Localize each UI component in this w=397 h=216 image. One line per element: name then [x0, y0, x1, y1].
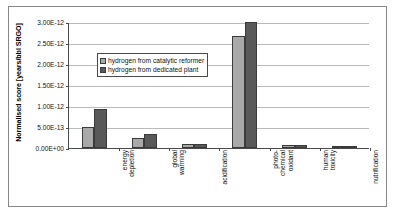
y-axis-tick-label: 0.00E+00 — [18, 145, 64, 152]
y-axis-tick-label: 3.00E-12 — [18, 19, 64, 26]
bar-group — [270, 23, 320, 148]
x-axis-label-line: nutrification — [372, 150, 379, 206]
bar-1 — [245, 22, 258, 148]
x-axis-label: energydepletion — [121, 150, 136, 206]
y-axis-tick-label: 5.00E-13 — [18, 124, 64, 131]
bar-1 — [94, 109, 107, 148]
x-axis-label: acidification — [221, 150, 228, 206]
x-axis-label-line: depletion — [129, 150, 136, 206]
x-axis-label-line: chemical — [279, 150, 286, 206]
bar-0 — [82, 127, 95, 148]
x-axis-label: humantoxicity — [322, 150, 337, 206]
bar-0 — [132, 138, 145, 148]
y-axis-tick-label: 1.50E-12 — [18, 82, 64, 89]
x-axis-label-line: acidification — [221, 150, 228, 206]
bar-group — [119, 23, 169, 148]
y-axis-tick-label: 1.00E-12 — [18, 103, 64, 110]
bar-group — [169, 23, 219, 148]
x-axis-label-line: warming — [179, 150, 186, 206]
bar-1 — [194, 144, 207, 148]
x-axis-label-line: human — [322, 150, 329, 206]
x-axis-label: globalwarming — [171, 150, 186, 206]
chart-legend: hydrogen from catalytic reformer hydroge… — [97, 53, 208, 77]
bar-0 — [182, 144, 195, 148]
bar-1 — [345, 146, 358, 148]
legend-swatch-icon-series-0 — [100, 58, 106, 64]
bar-0 — [282, 145, 295, 148]
x-axis-label-line: oxidant — [286, 150, 293, 206]
legend-swatch-icon-series-1 — [100, 67, 106, 73]
chart-figure: Normalised score [years/bbl SRGO] 0.00E+… — [0, 0, 397, 216]
legend-item-dedicated-plant: hydrogen from dedicated plant — [100, 65, 204, 74]
bar-group — [69, 23, 119, 148]
bar-1 — [144, 134, 157, 148]
y-axis-tick-label: 2.50E-12 — [18, 40, 64, 47]
bar-0 — [232, 36, 245, 148]
x-axis-tick — [370, 148, 371, 151]
bar-group — [320, 23, 370, 148]
plot-area — [68, 23, 369, 149]
y-axis-tick-labels: 0.00E+005.00E-131.00E-121.50E-122.00E-12… — [16, 23, 64, 149]
x-axis-label: photo-chemicaloxidant — [272, 150, 294, 206]
x-axis-label: nutrification — [372, 150, 379, 206]
bar-group — [220, 23, 270, 148]
x-axis-label-line: photo- — [272, 150, 279, 206]
legend-label-series-0: hydrogen from catalytic reformer — [108, 57, 204, 64]
legend-label-series-1: hydrogen from dedicated plant — [108, 66, 198, 73]
legend-item-catalytic-reformer: hydrogen from catalytic reformer — [100, 56, 204, 65]
x-axis-category-labels: energydepletionglobalwarmingacidificatio… — [68, 150, 369, 206]
y-axis-tick-label: 2.00E-12 — [18, 61, 64, 68]
bar-1 — [295, 145, 308, 148]
x-axis-label-line: energy — [121, 150, 128, 206]
x-axis-label-line: toxicity — [329, 150, 336, 206]
bar-series-container — [69, 23, 369, 148]
bar-0 — [332, 146, 345, 148]
